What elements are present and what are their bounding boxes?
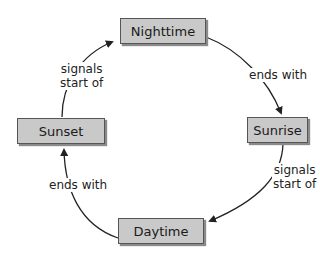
node-sunset: Sunset — [17, 118, 105, 144]
edge-label-line2: start of — [60, 76, 103, 90]
edge-label-sunrise-daytime: signals start of — [272, 163, 317, 191]
edge-label-daytime-sunset: ends with — [48, 178, 108, 192]
edge-daytime-to-sunset — [64, 150, 118, 238]
node-sunrise: Sunrise — [247, 117, 308, 143]
node-daytime: Daytime — [118, 218, 204, 244]
edge-label-text: ends with — [49, 178, 107, 192]
edge-label-nighttime-sunrise: ends with — [248, 68, 308, 82]
edge-label-line1: signals — [60, 62, 103, 76]
edge-label-sunset-nighttime: signals start of — [59, 62, 104, 90]
edge-label-line2: start of — [273, 177, 316, 191]
edge-label-line1: signals — [273, 163, 316, 177]
node-daytime-label: Daytime — [133, 224, 188, 239]
edge-label-text: ends with — [249, 68, 307, 82]
node-sunset-label: Sunset — [39, 124, 84, 139]
node-nighttime-label: Nighttime — [131, 24, 195, 39]
node-nighttime: Nighttime — [120, 18, 206, 44]
node-sunrise-label: Sunrise — [253, 123, 301, 138]
